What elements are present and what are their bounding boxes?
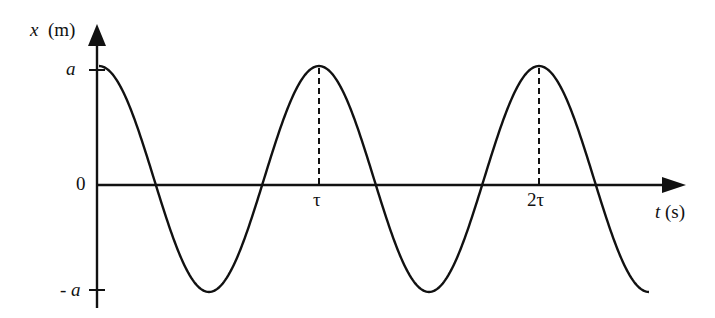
y-axis-arrow-icon [88, 24, 106, 46]
x-axis-unit: (s) [665, 201, 685, 222]
x-tick-label-tau: τ [313, 190, 321, 209]
y-tick-label-zero: 0 [76, 174, 86, 193]
y-axis-var: x [30, 19, 38, 40]
y-tick-label-neg-a: - a [60, 280, 81, 299]
oscillation-chart [0, 0, 715, 318]
y-axis-unit: (m) [48, 19, 75, 40]
y-axis-label: x (m) [30, 20, 75, 39]
x-axis-label: t (s) [655, 202, 685, 221]
x-axis-var: t [655, 201, 660, 222]
cosine-curve [99, 66, 649, 292]
x-tick-label-2tau: 2τ [527, 190, 544, 209]
x-axis-arrow-icon [662, 177, 686, 193]
y-tick-label-a: a [66, 59, 76, 78]
